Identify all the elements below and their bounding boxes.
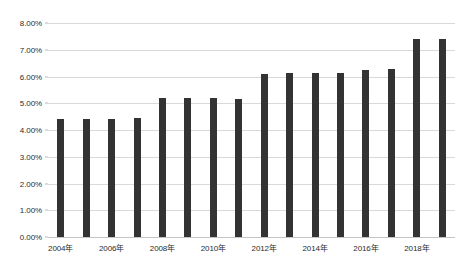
y-axis-tick-label: 5.00% [20,99,42,108]
bar [312,73,319,237]
y-axis-tick-label: 7.00% [20,45,42,54]
bar [439,39,446,237]
y-axis-tick-label: 1.00% [20,206,42,215]
bar [184,98,191,237]
x-axis-tick-label: 2016年 [353,242,378,253]
x-axis-labels: 2004年2006年2008年2010年2012年2014年2016年2018年 [48,240,455,260]
bar-chart: 0.00%1.00%2.00%3.00%4.00%5.00%6.00%7.00%… [0,0,464,268]
y-axis-tick-label: 4.00% [20,126,42,135]
bar [388,69,395,237]
bar [235,99,242,237]
bar [134,118,141,237]
bar [261,74,268,237]
bar [286,73,293,237]
x-axis-tick-label: 2006年 [99,242,124,253]
x-axis-tick-label: 2004年 [48,242,73,253]
y-axis-tick-label: 3.00% [20,152,42,161]
bar [413,39,420,237]
bar [83,119,90,237]
bar [337,73,344,238]
x-axis-tick-label: 2014年 [302,242,327,253]
bar [159,98,166,237]
y-axis-tick-label: 2.00% [20,179,42,188]
x-axis-tick-label: 2010年 [201,242,226,253]
x-axis-tick-label: 2012年 [252,242,277,253]
bar [57,119,64,237]
bars [48,23,455,237]
y-axis-tick-label: 6.00% [20,72,42,81]
bar [362,70,369,237]
gridline [48,237,455,238]
bar [108,119,115,238]
plot-area: 0.00%1.00%2.00%3.00%4.00%5.00%6.00%7.00%… [48,23,455,237]
bar [210,98,217,237]
y-axis-tick-label: 0.00% [20,233,42,242]
y-axis-tick-label: 8.00% [20,19,42,28]
x-axis-tick-label: 2008年 [150,242,175,253]
x-axis-tick-label: 2018年 [404,242,429,253]
